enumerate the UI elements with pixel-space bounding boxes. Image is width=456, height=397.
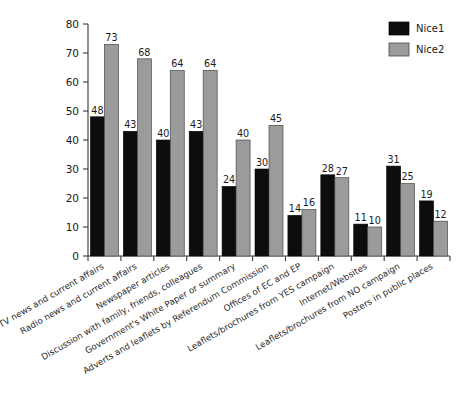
bar: [123, 131, 137, 256]
bar-value-label: 64: [171, 58, 183, 69]
bar-value-label: 40: [157, 128, 169, 139]
bar-value-label: 45: [270, 113, 282, 124]
bar: [335, 178, 349, 256]
bar-value-label: 19: [420, 189, 432, 200]
bars-layer: [90, 44, 447, 256]
bar: [354, 224, 368, 256]
y-axis-tick-label: 80: [66, 18, 79, 30]
y-axis-tick-label: 50: [66, 105, 79, 117]
y-axis-tick-label: 20: [66, 192, 79, 204]
bar: [203, 70, 217, 256]
bar: [434, 221, 448, 256]
chart-canvas: 01020304050607080 4843404324301428113119…: [0, 0, 456, 397]
bar: [137, 59, 151, 256]
bar-value-label: 25: [402, 171, 414, 182]
bar: [302, 210, 316, 256]
bar: [236, 140, 250, 256]
bar: [387, 166, 401, 256]
legend-label: Nice2: [416, 44, 444, 55]
y-axis-tick-label: 40: [66, 134, 79, 146]
bar-value-label: 11: [355, 212, 367, 223]
bar: [255, 169, 269, 256]
bar: [104, 44, 118, 256]
bar: [170, 70, 184, 256]
bar-value-label: 48: [91, 105, 103, 116]
bar-value-label: 73: [105, 32, 117, 43]
y-axis-tick-label: 70: [66, 47, 79, 59]
bar-value-label: 30: [256, 157, 268, 168]
bar: [368, 227, 382, 256]
legend-swatch: [389, 43, 409, 56]
x-axis: [88, 256, 450, 261]
bar-value-label: 68: [138, 47, 150, 58]
chart-legend: Nice1Nice2: [389, 22, 444, 56]
bar-value-label: 28: [322, 163, 334, 174]
bar: [189, 131, 203, 256]
bar-value-label: 40: [237, 128, 249, 139]
bar: [420, 201, 434, 256]
bar-value-label: 16: [303, 197, 315, 208]
y-axis-tick-label: 30: [66, 163, 79, 175]
legend-swatch: [389, 22, 409, 35]
bar: [222, 186, 236, 256]
bar: [156, 140, 170, 256]
bar: [269, 126, 283, 257]
bar-value-label: 43: [190, 119, 202, 130]
y-axis-tick-label: 0: [72, 250, 79, 262]
bar-value-label: 12: [434, 209, 446, 220]
bar-value-label: 64: [204, 58, 216, 69]
legend-label: Nice1: [416, 23, 444, 34]
bar-value-label: 14: [289, 203, 301, 214]
bar: [90, 117, 104, 256]
bar-value-label: 43: [124, 119, 136, 130]
bar: [401, 184, 415, 257]
bar-chart-figure: 01020304050607080 4843404324301428113119…: [0, 0, 456, 397]
y-axis-tick-label: 60: [66, 76, 79, 88]
y-axis: 01020304050607080: [66, 18, 88, 262]
bar: [288, 215, 302, 256]
bar-value-label: 31: [388, 154, 400, 165]
category-labels-layer: TV news and current affairsRadio news an…: [0, 261, 435, 376]
y-axis-tick-label: 10: [66, 221, 79, 233]
bar: [321, 175, 335, 256]
bar-value-label: 27: [336, 166, 348, 177]
bar-value-label: 10: [369, 215, 381, 226]
bar-value-label: 24: [223, 174, 235, 185]
